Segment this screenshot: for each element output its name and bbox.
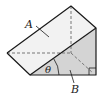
- label-a: A: [24, 18, 33, 31]
- label-b: B: [70, 83, 79, 96]
- label-theta: θ: [45, 64, 51, 75]
- prism-diagram: A B θ: [0, 0, 106, 97]
